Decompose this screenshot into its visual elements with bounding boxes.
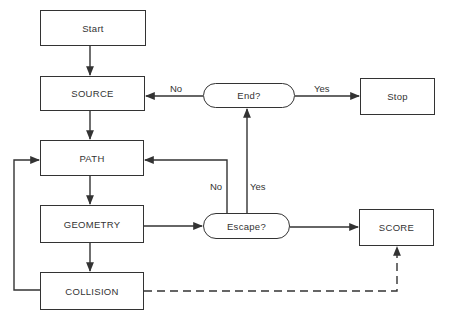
node-score: SCORE [359,209,434,246]
edge-collision-score-dashed [144,247,397,291]
decision-escape-label: Escape? [227,221,266,232]
node-start-label: Start [82,23,104,34]
node-stop: Stop [360,78,435,115]
node-path: PATH [40,140,144,176]
decision-escape: Escape? [203,213,290,239]
label-end-no: No [170,83,182,94]
node-path-label: PATH [79,153,104,164]
label-escape-no: No [210,181,222,192]
node-geometry-label: GEOMETRY [64,219,121,230]
decision-end: End? [203,83,295,108]
node-stop-label: Stop [387,91,408,102]
node-collision: COLLISION [40,272,144,310]
node-score-label: SCORE [379,222,414,233]
node-source: SOURCE [40,76,145,111]
node-collision-label: COLLISION [65,286,118,297]
decision-end-label: End? [237,90,260,101]
node-source-label: SOURCE [71,88,113,99]
label-end-yes: Yes [314,83,330,94]
node-start: Start [40,10,146,46]
edge-collision-path-loop [14,160,40,290]
node-geometry: GEOMETRY [40,205,144,243]
label-escape-yes: Yes [250,181,266,192]
